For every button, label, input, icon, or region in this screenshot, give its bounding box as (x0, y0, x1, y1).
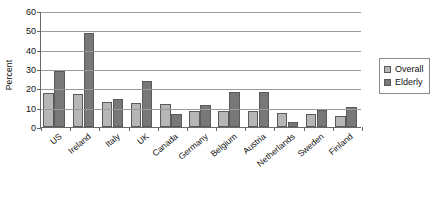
y-axis-tick-labels: 0102030405060 (16, 12, 36, 128)
gridline (41, 51, 361, 52)
x-tick-label-text: Sweden (296, 132, 325, 159)
bar-canada-overall (160, 104, 171, 127)
bar-us-overall (43, 93, 54, 127)
legend-item-label: Elderly (395, 78, 423, 87)
y-tick-label: 60 (26, 8, 36, 17)
y-tick-label: 50 (26, 27, 36, 36)
y-tick-label: 30 (26, 66, 36, 75)
legend-swatch-icon (384, 79, 391, 86)
y-tick-mark (37, 89, 41, 90)
legend-item-label: Overall (395, 65, 424, 74)
y-axis-title-label: Percent (4, 60, 14, 91)
plot-area (40, 12, 361, 128)
x-tick-label-text: Ireland (67, 132, 93, 155)
x-tick-label-text: Italy (104, 132, 122, 149)
x-tick-label-text: Finland (328, 132, 355, 157)
gridline (41, 89, 361, 90)
bar-uk-overall (131, 103, 142, 127)
bar-us-elderly (54, 71, 65, 127)
legend-item-overall[interactable]: Overall (384, 63, 424, 76)
y-tick-label: 10 (26, 104, 36, 113)
x-axis-tick-labels: USIrelandItalyUKCanadaGermanyBelgiumAust… (40, 128, 361, 194)
y-tick-label: 40 (26, 46, 36, 55)
gridline (41, 12, 361, 13)
x-tick-label-text: UK (136, 132, 151, 146)
y-tick-mark (37, 51, 41, 52)
y-tick-mark (37, 31, 41, 32)
y-tick-label: 0 (31, 124, 36, 133)
gridline (41, 109, 361, 110)
bar-ireland-overall (73, 94, 84, 127)
x-tick-label-text: US (48, 132, 63, 146)
legend-swatch-icon (384, 66, 391, 73)
bar-ireland-elderly (84, 33, 95, 127)
chart-legend: OverallElderly (379, 58, 430, 94)
legend-item-elderly[interactable]: Elderly (384, 76, 424, 89)
bar-italy-elderly (113, 99, 124, 127)
y-tick-mark (37, 12, 41, 13)
bar-uk-elderly (142, 81, 153, 127)
y-axis-title: Percent (2, 30, 16, 120)
y-tick-label: 20 (26, 85, 36, 94)
y-tick-mark (37, 70, 41, 71)
bar-chart: Percent 0102030405060 USIrelandItalyUKCa… (0, 0, 447, 197)
x-tick-label-text: Belgium (209, 132, 238, 159)
gridline (41, 31, 361, 32)
bar-canada-elderly (171, 114, 182, 127)
gridline (41, 70, 361, 71)
y-tick-mark (37, 109, 41, 110)
